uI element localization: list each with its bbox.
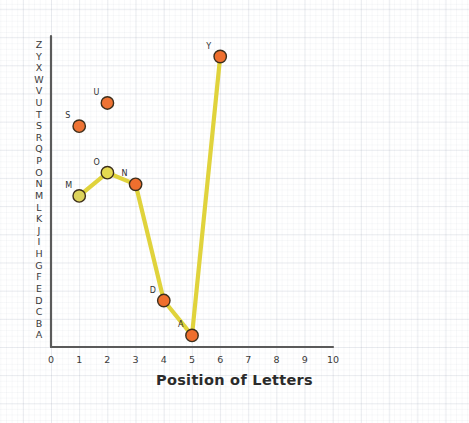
x-tick-1: 1 (71, 355, 87, 365)
data-point-label-m: M (65, 182, 72, 190)
y-tick-j: J (32, 226, 46, 236)
data-point-o[interactable] (101, 167, 113, 179)
x-tick-8: 8 (269, 355, 285, 365)
y-tick-s: S (32, 121, 46, 131)
y-tick-t: T (32, 110, 46, 120)
axes (51, 36, 333, 347)
x-tick-7: 7 (240, 355, 256, 365)
x-tick-2: 2 (99, 355, 115, 365)
y-tick-v: V (32, 86, 46, 96)
y-tick-q: Q (32, 144, 46, 154)
y-tick-c: C (32, 307, 46, 317)
y-tick-b: B (32, 319, 46, 329)
y-tick-x: X (32, 63, 46, 73)
x-tick-5: 5 (184, 355, 200, 365)
y-tick-w: W (32, 75, 46, 85)
data-point-d[interactable] (158, 294, 170, 306)
y-tick-y: Y (32, 52, 46, 62)
y-tick-o: O (32, 168, 46, 178)
data-point-label-y: Y (206, 43, 211, 51)
data-point-label-d: D (150, 287, 156, 295)
x-tick-0: 0 (43, 355, 59, 365)
y-tick-r: R (32, 133, 46, 143)
y-tick-u: U (32, 98, 46, 108)
data-point-m[interactable] (73, 190, 85, 202)
y-tick-h: H (32, 249, 46, 259)
x-tick-10: 10 (325, 355, 341, 365)
x-axis-title: Position of Letters (0, 372, 469, 388)
y-tick-e: E (32, 284, 46, 294)
y-tick-g: G (32, 261, 46, 271)
chart-container: ABCDEFGHIJKLMNOPQRSTUVWXYZ 012345678910 … (0, 0, 469, 423)
x-tick-3: 3 (128, 355, 144, 365)
data-point-label-a: A (178, 321, 183, 329)
data-point-a[interactable] (186, 329, 198, 341)
data-point-label-s: S (65, 112, 70, 120)
y-tick-z: Z (32, 40, 46, 50)
data-point-label-o: O (93, 159, 99, 167)
x-tick-6: 6 (212, 355, 228, 365)
y-tick-l: L (32, 203, 46, 213)
data-point-y[interactable] (214, 50, 226, 62)
y-tick-f: F (32, 272, 46, 282)
y-tick-k: K (32, 214, 46, 224)
data-point-s[interactable] (73, 120, 85, 132)
y-tick-m: M (32, 191, 46, 201)
data-point-n[interactable] (129, 178, 141, 190)
data-point-label-n: N (122, 170, 128, 178)
y-tick-i: I (32, 237, 46, 247)
y-tick-p: P (32, 156, 46, 166)
data-point-label-u: U (93, 89, 99, 97)
x-tick-9: 9 (297, 355, 313, 365)
data-point-u[interactable] (101, 97, 113, 109)
y-tick-n: N (32, 179, 46, 189)
y-tick-d: D (32, 296, 46, 306)
x-tick-4: 4 (156, 355, 172, 365)
y-tick-a: A (32, 330, 46, 340)
